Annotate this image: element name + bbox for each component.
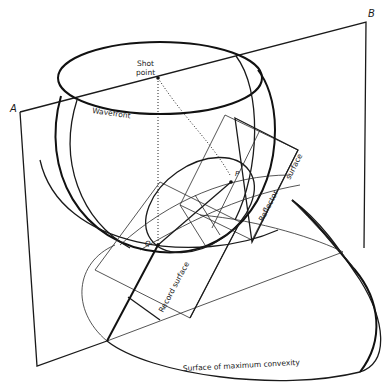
point-p-label: P: [235, 170, 240, 178]
seismic-wavefront-diagram: A B Shot point Wavefront P Q Reflector s…: [0, 0, 387, 382]
surface-max-convexity-label: Surface of maximum convexity: [183, 358, 301, 373]
ray-paths: [158, 78, 230, 245]
point-q-label: Q: [145, 240, 151, 248]
shot-point-label-2: point: [136, 68, 155, 77]
corner-a-label: A: [9, 103, 17, 114]
corner-b-label: B: [368, 8, 375, 19]
record-surface-plane: [95, 182, 240, 341]
point-q-dot: [156, 243, 160, 247]
point-p-dot: [229, 180, 233, 184]
record-surface-label: Record surface: [157, 260, 191, 314]
shot-point-dot: [156, 76, 160, 80]
vertical-plane-ab: [20, 22, 366, 366]
reflector-surface-label: surface: [284, 152, 305, 181]
wavefront-sphere: [40, 42, 278, 252]
shot-point-label-1: Shot: [137, 59, 154, 68]
wavefront-label: Wavefront: [92, 106, 131, 120]
